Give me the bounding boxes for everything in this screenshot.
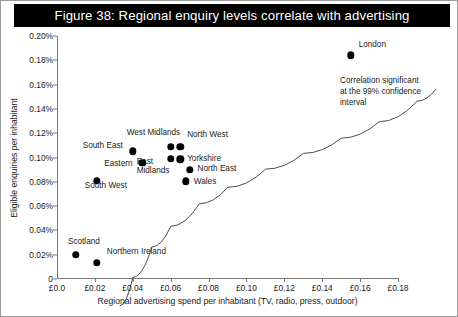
x-tick-mark <box>322 278 323 282</box>
x-tick-mark <box>284 278 285 282</box>
y-tick-mark <box>53 230 57 231</box>
x-tick-label: £0.0 <box>49 283 65 293</box>
y-tick-label: 0.08% <box>29 177 53 187</box>
data-point-london[interactable] <box>347 52 354 59</box>
y-tick-label: 0.12% <box>29 128 53 138</box>
y-tick-mark <box>53 36 57 37</box>
figure-title-bar: Figure 38: Regional enquiry levels corre… <box>14 4 450 27</box>
y-tick-mark <box>53 60 57 61</box>
data-point-label-south-east: South East <box>83 141 123 151</box>
data-point-scotland[interactable] <box>72 251 79 258</box>
x-tick-label: £0.08 <box>198 283 219 293</box>
x-tick-mark <box>171 278 172 282</box>
y-tick-label: 0.10% <box>29 153 53 163</box>
figure-container: Figure 38: Regional enquiry levels corre… <box>0 0 458 317</box>
x-tick-label: £0.18 <box>388 283 409 293</box>
data-point-label-eastern: Eastern <box>104 159 132 169</box>
x-tick-label: £0.12 <box>274 283 295 293</box>
y-tick-label: 0.14% <box>29 104 53 114</box>
y-tick-mark <box>53 108 57 109</box>
y-tick-mark <box>53 133 57 134</box>
x-axis-title: Regional advertising spend per inhabitan… <box>57 296 398 306</box>
annotation-line-2: at the 99% confidence <box>340 87 444 98</box>
data-point-label-wales: Wales <box>194 177 216 187</box>
data-point-label-west-midlands: West Midlands <box>127 128 181 138</box>
x-tick-label: £0.10 <box>236 283 257 293</box>
data-point-label-north-east: North East <box>198 164 237 174</box>
x-tick-label: £0.02 <box>84 283 105 293</box>
data-point-label-yorkshire: Yorkshire <box>187 154 221 164</box>
x-tick-mark <box>133 278 134 282</box>
data-point-northern-ireland[interactable] <box>93 259 100 266</box>
y-tick-label: 0.06% <box>29 201 53 211</box>
page-title: Figure 38: Regional enquiry levels corre… <box>54 8 409 23</box>
y-axis-title: Eligible enquiries per inhabitant <box>6 36 22 279</box>
y-tick-mark <box>53 181 57 182</box>
x-tick-mark <box>360 278 361 282</box>
x-tick-label: £0.06 <box>160 283 181 293</box>
y-tick-mark <box>53 84 57 85</box>
x-tick-mark <box>246 278 247 282</box>
plot-area: 00.02%0.04%0.06%0.08%0.10%0.12%0.14%0.16… <box>57 36 397 278</box>
x-tick-mark <box>95 278 96 282</box>
y-axis-title-text: Eligible enquiries per inhabitant <box>9 98 19 217</box>
y-tick-label: 0.02% <box>29 250 53 260</box>
y-tick-mark <box>53 279 57 280</box>
x-tick-label: £0.14 <box>312 283 333 293</box>
data-point-label-scotland: Scotland <box>68 237 100 247</box>
y-tick-label: 0.04% <box>29 225 53 235</box>
y-tick-mark <box>53 206 57 207</box>
data-point-label-london: London <box>359 40 386 50</box>
x-tick-mark <box>398 278 399 282</box>
annotation-line-1: Correlation significant <box>340 76 444 87</box>
x-tick-mark <box>209 278 210 282</box>
y-tick-mark <box>53 157 57 158</box>
annotation-line-3: interval <box>340 98 444 109</box>
y-tick-label: 0.16% <box>29 80 53 90</box>
y-tick-mark <box>53 254 57 255</box>
data-point-label-northern-ireland: Northern Ireland <box>107 247 166 257</box>
y-tick-label: 0.18% <box>29 55 53 65</box>
correlation-annotation: Correlation significant at the 99% confi… <box>340 76 444 108</box>
data-point-label-north-west: North West <box>187 130 228 140</box>
y-tick-label: 0.20% <box>29 31 53 41</box>
data-point-label-south-west: South West <box>85 181 131 191</box>
x-tick-label: £0.16 <box>350 283 371 293</box>
x-tick-label: £0.04 <box>122 283 143 293</box>
